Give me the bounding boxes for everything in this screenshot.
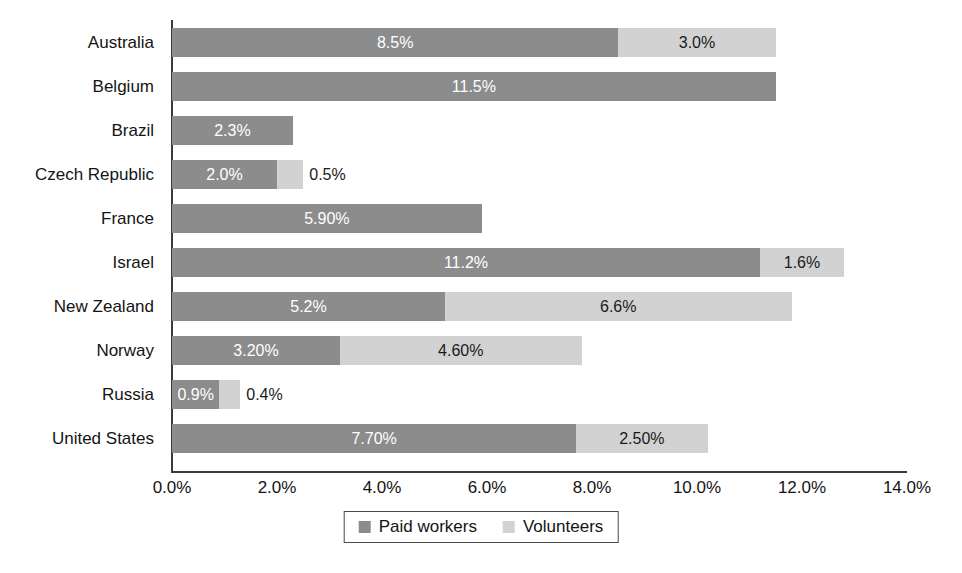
x-tick-label: 2.0%	[258, 478, 297, 498]
bar-row: 11.5%	[172, 72, 776, 101]
bar-row: 7.70%2.50%	[172, 424, 708, 453]
category-label: Australia	[88, 28, 154, 57]
bar-segment-paid-workers: 0.9%	[172, 380, 219, 409]
bar-segment-paid-workers: 7.70%	[172, 424, 576, 453]
bar-segment-paid-workers: 11.5%	[172, 72, 776, 101]
bar-value-label: 5.2%	[290, 298, 326, 316]
bar-segment-paid-workers: 5.2%	[172, 292, 445, 321]
category-label: Brazil	[111, 116, 154, 145]
bar-row: 3.20%4.60%	[172, 336, 582, 365]
x-tick-label: 10.0%	[673, 478, 721, 498]
x-tick-label: 4.0%	[363, 478, 402, 498]
stacked-bar-chart: AustraliaBelgiumBrazilCzech RepublicFran…	[0, 0, 962, 573]
x-tick-label: 6.0%	[468, 478, 507, 498]
legend-label-paid-workers: Paid workers	[379, 517, 477, 537]
bar-segment-volunteers: 0.4%	[219, 380, 240, 409]
category-label: Belgium	[93, 72, 154, 101]
bar-segment-paid-workers: 5.90%	[172, 204, 482, 233]
bar-row: 2.3%	[172, 116, 293, 145]
legend-swatch-icon-volunteers	[503, 521, 515, 533]
bar-value-label: 5.90%	[304, 210, 349, 228]
bar-segment-paid-workers: 2.3%	[172, 116, 293, 145]
bar-segment-volunteers: 2.50%	[576, 424, 707, 453]
bar-segment-volunteers: 0.5%	[277, 160, 303, 189]
category-label: Czech Republic	[35, 160, 154, 189]
bar-segment-volunteers: 1.6%	[760, 248, 844, 277]
x-tick-label: 0.0%	[153, 478, 192, 498]
x-tick-label: 14.0%	[883, 478, 931, 498]
bar-value-label: 3.20%	[233, 342, 278, 360]
bar-value-label: 8.5%	[377, 34, 413, 52]
bar-segment-paid-workers: 11.2%	[172, 248, 760, 277]
category-label: Norway	[96, 336, 154, 365]
bar-row: 8.5%3.0%	[172, 28, 776, 57]
bar-series-container: 8.5%3.0%11.5%2.3%2.0%0.5%5.90%11.2%1.6%5…	[172, 20, 907, 472]
bar-value-label: 11.5%	[452, 78, 496, 96]
bar-segment-volunteers: 3.0%	[618, 28, 776, 57]
category-label: Israel	[112, 248, 154, 277]
bar-value-label: 1.6%	[784, 254, 820, 272]
bar-row: 2.0%0.5%	[172, 160, 303, 189]
bar-value-label: 3.0%	[679, 34, 715, 52]
plot-area: 8.5%3.0%11.5%2.3%2.0%0.5%5.90%11.2%1.6%5…	[172, 20, 907, 472]
bar-value-label: 2.3%	[214, 122, 250, 140]
bar-value-label: 0.4%	[246, 386, 282, 404]
bar-row: 0.9%0.4%	[172, 380, 240, 409]
bar-value-label: 2.0%	[206, 166, 242, 184]
legend-label-volunteers: Volunteers	[523, 517, 603, 537]
bar-row: 5.90%	[172, 204, 482, 233]
legend-item-volunteers: Volunteers	[503, 517, 603, 537]
bar-segment-paid-workers: 2.0%	[172, 160, 277, 189]
bar-value-label: 4.60%	[438, 342, 483, 360]
bar-row: 5.2%6.6%	[172, 292, 792, 321]
bar-value-label: 6.6%	[600, 298, 636, 316]
x-axis-tick-labels: 0.0%2.0%4.0%6.0%8.0%10.0%12.0%14.0%	[0, 478, 962, 504]
chart-legend: Paid workers Volunteers	[344, 511, 619, 543]
category-label: France	[101, 204, 154, 233]
bar-row: 11.2%1.6%	[172, 248, 844, 277]
bar-segment-volunteers: 6.6%	[445, 292, 792, 321]
bar-value-label: 7.70%	[351, 430, 396, 448]
bar-segment-volunteers: 4.60%	[340, 336, 582, 365]
x-tick-label: 8.0%	[573, 478, 612, 498]
bar-value-label: 0.9%	[177, 386, 213, 404]
category-label: Russia	[102, 380, 154, 409]
x-tick-label: 12.0%	[778, 478, 826, 498]
category-label: New Zealand	[54, 292, 154, 321]
bar-segment-paid-workers: 8.5%	[172, 28, 618, 57]
category-label: United States	[52, 424, 154, 453]
bar-value-label: 11.2%	[444, 254, 488, 272]
legend-swatch-icon-paid-workers	[359, 521, 371, 533]
legend-item-paid-workers: Paid workers	[359, 517, 477, 537]
bar-value-label: 0.5%	[309, 166, 345, 184]
category-axis-labels: AustraliaBelgiumBrazilCzech RepublicFran…	[0, 20, 164, 472]
bar-segment-paid-workers: 3.20%	[172, 336, 340, 365]
bar-value-label: 2.50%	[619, 430, 664, 448]
